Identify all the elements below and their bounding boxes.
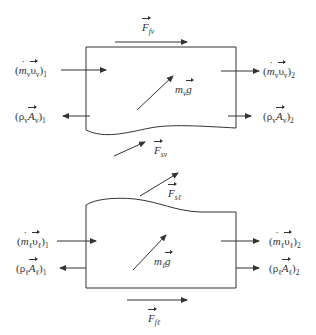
vapor-momentum-in-label: (mvυv)1: [15, 65, 47, 79]
liquid-momentum-out-label: (mℓυℓ)2: [269, 236, 301, 250]
vapor-gravity-label: mvg: [175, 84, 192, 98]
liquid-pressure-out-label: (ρℓAℓ)2: [269, 263, 300, 277]
vapor-pressure-out-label: (ρvAv)2: [263, 111, 294, 125]
vapor-momentum-out-label: (mvυv)2: [263, 66, 295, 80]
momentum-balance-diagram: [0, 0, 316, 335]
vapor-interface-force-label: Fsv: [154, 145, 167, 159]
liquid-interface-force-label: Fsℓ: [168, 188, 181, 202]
vapor-wall-force-label: Ffv: [142, 22, 154, 36]
vapor-interface-force-arrow: [114, 142, 145, 156]
vapor-control-volume: [86, 47, 236, 135]
liquid-momentum-in-label: (mℓυℓ)1: [17, 236, 49, 250]
liquid-wall-force-label: Ffℓ: [148, 313, 160, 327]
liquid-pressure-in-label: (ρℓAℓ)1: [16, 263, 47, 277]
liquid-gravity-label: mℓg: [154, 256, 171, 270]
liquid-control-volume: [86, 198, 236, 288]
vapor-pressure-in-label: (ρvAv)1: [15, 111, 46, 125]
vapor-gravity-arrow: [137, 76, 173, 110]
